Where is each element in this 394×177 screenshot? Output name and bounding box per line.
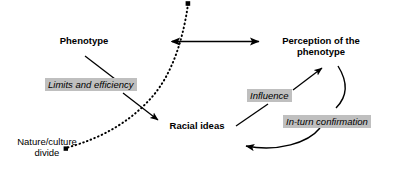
tag-influence: Influence bbox=[247, 89, 292, 102]
tag-in-turn-confirmation: In-turn confirmation bbox=[283, 115, 371, 128]
node-perception-line2: phenotype bbox=[297, 46, 345, 58]
perception-to-confirmation-curve bbox=[336, 66, 345, 108]
tag-limits-and-efficiency: Limits and efficiency bbox=[45, 78, 137, 91]
node-racial-ideas: Racial ideas bbox=[170, 120, 225, 132]
diagram-canvas: Phenotype Perception of the phenotype Ra… bbox=[0, 0, 394, 177]
node-phenotype: Phenotype bbox=[60, 35, 109, 47]
divide-top-endpoint-dot bbox=[186, 1, 191, 6]
influence-to-perception-arrow bbox=[293, 68, 322, 90]
node-nature-culture-line1: Nature/culture bbox=[17, 136, 77, 148]
confirmation-to-racial-ideas-curve bbox=[246, 128, 320, 148]
phenotype-to-limits-line bbox=[85, 56, 115, 79]
node-perception-line1: Perception of the bbox=[282, 35, 360, 47]
node-nature-culture-line2: divide bbox=[35, 147, 60, 159]
racial-ideas-to-influence-line bbox=[236, 104, 268, 126]
